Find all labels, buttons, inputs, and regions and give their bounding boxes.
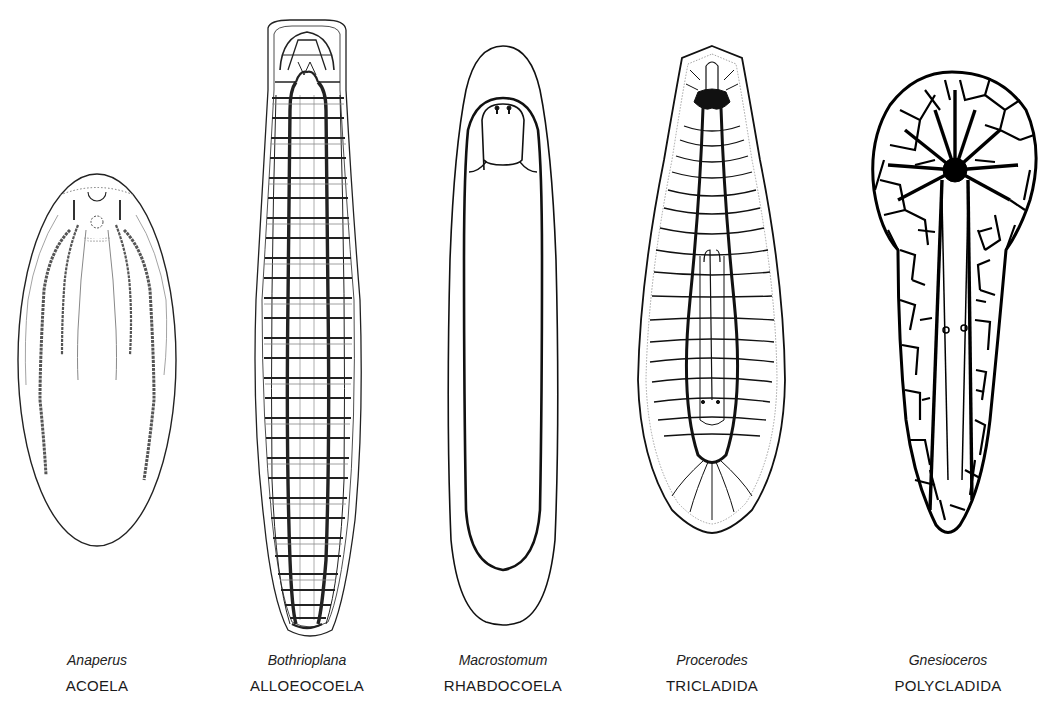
genus-name: Anaperus — [0, 652, 197, 668]
specimen-label-bothrioplana: Bothrioplana ALLOEOCOELA — [207, 652, 407, 694]
order-name: TRICLADIDA — [612, 677, 812, 694]
flatworm-figure: Anaperus ACOELA Bothrioplana ALLOEOCOELA… — [0, 0, 1057, 722]
specimen-label-procerodes: Procerodes TRICLADIDA — [612, 652, 812, 694]
order-name: RHABDOCOELA — [403, 677, 603, 694]
anaperus-drawing — [18, 174, 176, 546]
gnesioceros-drawing — [873, 72, 1036, 533]
specimen-label-gnesioceros: Gnesioceros POLYCLADIDA — [848, 652, 1048, 694]
bothrioplana-drawing — [255, 20, 361, 636]
procerodes-drawing — [638, 46, 785, 533]
genus-name: Procerodes — [612, 652, 812, 668]
macrostomum-drawing — [448, 46, 558, 625]
genus-name: Bothrioplana — [207, 652, 407, 668]
specimen-label-anaperus: Anaperus ACOELA — [0, 652, 197, 694]
genus-name: Macrostomum — [403, 652, 603, 668]
genus-name: Gnesioceros — [848, 652, 1048, 668]
specimen-label-macrostomum: Macrostomum RHABDOCOELA — [403, 652, 603, 694]
order-name: ALLOEOCOELA — [207, 677, 407, 694]
specimen-drawings — [0, 0, 1057, 640]
order-name: ACOELA — [0, 677, 197, 694]
order-name: POLYCLADIDA — [848, 677, 1048, 694]
